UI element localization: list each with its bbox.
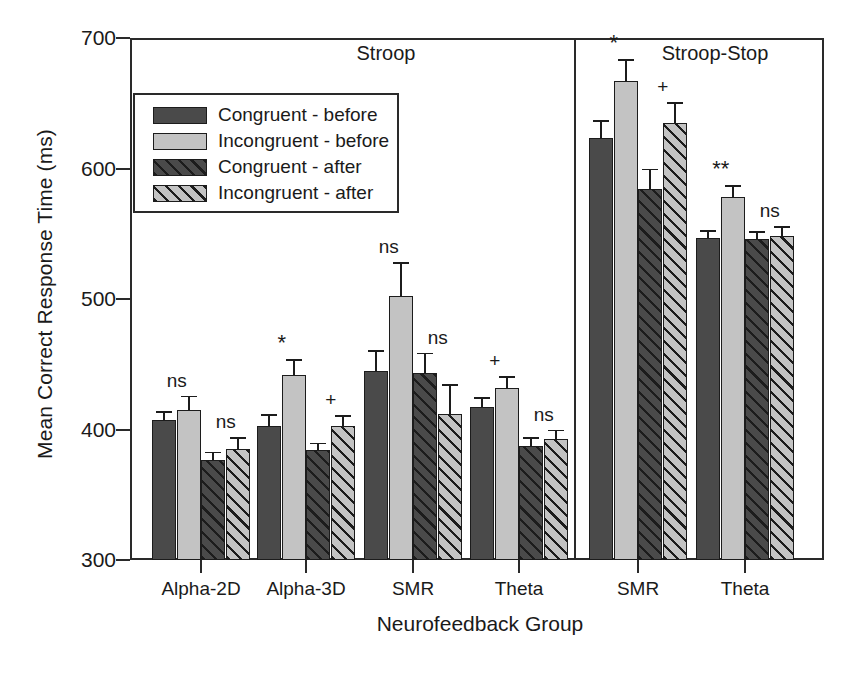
bar	[364, 371, 388, 560]
legend-label: Congruent - after	[218, 156, 362, 178]
error-bar-cap	[368, 350, 384, 352]
significance-marker: **	[691, 162, 751, 176]
error-bar-cap	[442, 384, 458, 386]
bar	[589, 138, 613, 560]
bar	[770, 236, 794, 560]
bar	[663, 123, 687, 560]
bar	[544, 439, 568, 560]
error-bar	[237, 437, 239, 449]
error-bar-cap	[548, 430, 564, 432]
error-bar	[400, 262, 402, 296]
legend-item: Congruent - before	[153, 102, 397, 128]
x-tick	[200, 560, 202, 573]
error-bar-cap	[230, 437, 246, 439]
bar	[721, 197, 745, 560]
error-bar	[375, 350, 377, 371]
x-axis-title: Neurofeedback Group	[130, 612, 830, 636]
significance-marker: *	[252, 336, 312, 350]
bar	[226, 449, 250, 560]
error-bar-cap	[417, 353, 433, 355]
error-bar-cap	[618, 59, 634, 61]
y-tick-label: 400	[64, 418, 116, 442]
y-tick-label: 500	[64, 287, 116, 311]
panel-title-stroop-stop: Stroop-Stop	[615, 42, 815, 65]
significance-marker: ns	[147, 370, 207, 392]
legend-item: Incongruent - before	[153, 128, 397, 154]
error-bar-cap	[156, 411, 172, 413]
error-bar-cap	[474, 397, 490, 399]
error-bar-cap	[393, 262, 409, 264]
significance-marker: ns	[196, 411, 256, 433]
legend-item: Incongruent - after	[153, 180, 397, 206]
y-tick-label: 300	[64, 548, 116, 572]
legend-swatch-incongruent-before	[153, 133, 207, 150]
significance-marker: ns	[514, 404, 574, 426]
y-tick-label: 700	[64, 26, 116, 50]
error-bar	[674, 102, 676, 123]
error-bar-cap	[700, 230, 716, 232]
bar	[519, 446, 543, 560]
y-tick-label: 600	[64, 157, 116, 181]
significance-marker: +	[465, 350, 525, 372]
error-bar-cap	[286, 359, 302, 361]
bar	[438, 414, 462, 560]
legend: Congruent - before Incongruent - before …	[133, 93, 399, 213]
error-bar-cap	[181, 396, 197, 398]
chart-canvas: Mean Correct Response Time (ms) Neurofee…	[0, 0, 850, 673]
error-bar	[424, 353, 426, 374]
bar	[470, 407, 494, 560]
error-bar-cap	[749, 231, 765, 233]
error-bar	[506, 376, 508, 388]
x-tick	[305, 560, 307, 573]
legend-swatch-incongruent-after	[153, 185, 207, 202]
bar	[745, 239, 769, 560]
error-bar-cap	[310, 443, 326, 445]
x-tick	[744, 560, 746, 573]
x-tick	[637, 560, 639, 573]
y-axis-title: Mean Correct Response Time (ms)	[33, 34, 57, 554]
significance-marker: ns	[359, 236, 419, 258]
error-bar	[449, 384, 451, 414]
x-tick	[412, 560, 414, 573]
error-bar-cap	[205, 452, 221, 454]
panel-divider	[574, 38, 576, 560]
legend-label: Congruent - before	[218, 104, 378, 126]
bar	[201, 460, 225, 560]
error-bar-cap	[261, 414, 277, 416]
significance-marker: +	[633, 76, 693, 98]
error-bar	[732, 185, 734, 197]
x-tick	[518, 560, 520, 573]
legend-label: Incongruent - after	[218, 182, 373, 204]
bar	[306, 450, 330, 560]
significance-marker: +	[301, 389, 361, 411]
error-bar-cap	[725, 185, 741, 187]
error-bar	[600, 120, 602, 138]
error-bar	[188, 396, 190, 410]
legend-item: Congruent - after	[153, 154, 397, 180]
legend-swatch-congruent-before	[153, 107, 207, 124]
significance-marker: ns	[740, 200, 800, 222]
error-bar-cap	[523, 437, 539, 439]
significance-marker: ns	[408, 327, 468, 349]
bar	[696, 238, 720, 560]
error-bar-cap	[642, 169, 658, 171]
error-bar	[293, 359, 295, 375]
bar	[331, 426, 355, 560]
significance-marker: *	[584, 36, 644, 50]
error-bar-cap	[335, 415, 351, 417]
bar	[638, 189, 662, 560]
error-bar	[625, 59, 627, 81]
error-bar-cap	[667, 102, 683, 104]
legend-swatch-congruent-after	[153, 159, 207, 176]
legend-label: Incongruent - before	[218, 130, 389, 152]
x-tick-label: Theta	[670, 578, 820, 600]
bar	[413, 373, 437, 560]
error-bar-cap	[593, 120, 609, 122]
error-bar	[268, 414, 270, 426]
error-bar	[649, 169, 651, 190]
error-bar-cap	[774, 226, 790, 228]
panel-title-stroop: Stroop	[286, 42, 486, 65]
bar	[614, 81, 638, 560]
error-bar-cap	[499, 376, 515, 378]
bar	[257, 426, 281, 560]
